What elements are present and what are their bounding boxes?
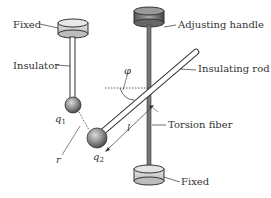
label-fixed-top: Fixed [13, 20, 41, 30]
symbol-l: l [127, 123, 130, 133]
symbol-phi: φ [124, 66, 131, 76]
label-insulating-rod: Insulating rod [198, 64, 270, 74]
rod-leader [180, 69, 196, 70]
symbol-q1: q1 [55, 114, 66, 126]
fixed-bottom-disc [134, 165, 164, 185]
r-leader [62, 126, 80, 155]
symbol-r: r [56, 155, 61, 165]
fixed-top-leader [40, 24, 58, 28]
label-insulator: Insulator [13, 61, 59, 71]
fixed-top-disc [58, 19, 88, 38]
insulator-rod [70, 37, 75, 99]
q1-sphere [65, 97, 81, 113]
label-fixed-bottom: Fixed [181, 177, 209, 187]
label-adjusting-handle: Adjusting handle [178, 20, 264, 30]
q2-sphere [87, 128, 107, 148]
torsion-fiber [147, 25, 151, 175]
fixed-bottom-leader [164, 177, 180, 182]
symbol-q2: q2 [93, 152, 104, 164]
handle-leader [164, 25, 176, 27]
adjusting-handle [134, 7, 164, 27]
q1-q2-dotted [79, 112, 89, 130]
label-torsion-fiber: Torsion fiber [168, 120, 232, 130]
phi-angle-arc [120, 88, 134, 100]
